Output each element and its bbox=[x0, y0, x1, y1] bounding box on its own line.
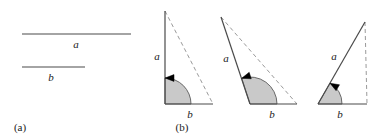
triangle-obtuse-angle: ab bbox=[221, 17, 297, 120]
figure-container: ab(a) ababab(b) bbox=[0, 0, 380, 137]
panel-b: ababab(b) bbox=[154, 11, 367, 134]
panel-a: ab(a) bbox=[14, 34, 131, 134]
triangle-obtuse-angle-angle-wedge bbox=[242, 77, 277, 104]
triangle-acute-angle-label-a: a bbox=[331, 50, 337, 62]
triangle-obtuse-angle-label-a: a bbox=[223, 52, 229, 64]
triangle-acute-angle-label-b: b bbox=[337, 108, 343, 120]
segment-b-label: b bbox=[48, 71, 54, 83]
triangle-obtuse-angle-label-b: b bbox=[269, 108, 275, 120]
triangle-right-angle-angle-wedge bbox=[165, 78, 191, 104]
triangle-acute-angle-side-a bbox=[318, 22, 365, 104]
triangle-right-angle: ab bbox=[154, 11, 213, 120]
segment-a-label: a bbox=[73, 38, 79, 50]
panel-b-caption: (b) bbox=[176, 121, 189, 134]
triangle-acute-angle: ab bbox=[318, 22, 367, 120]
panel-a-caption: (a) bbox=[14, 121, 27, 134]
triangle-acute-angle-dashed-side bbox=[365, 22, 367, 104]
triangle-right-angle-label-a: a bbox=[154, 50, 160, 62]
triangle-obtuse-angle-rotation-arrowhead bbox=[242, 72, 252, 78]
triangle-right-angle-label-b: b bbox=[187, 108, 193, 120]
geometry-figure: ab(a) ababab(b) bbox=[0, 0, 380, 137]
